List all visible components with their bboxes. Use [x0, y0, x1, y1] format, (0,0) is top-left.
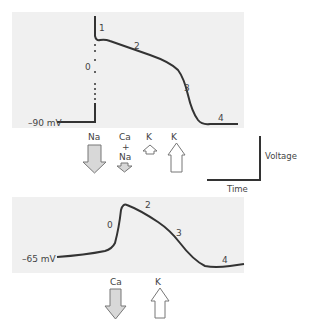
axes-legend-lines	[207, 136, 260, 180]
top-ion-k-small-label: K	[146, 132, 153, 142]
bottom-ion-k-label: K	[155, 277, 162, 287]
arrow-up-large-k-bottom-icon	[151, 288, 169, 318]
arrow-up-small-k-icon	[143, 145, 157, 154]
bottom-phase-0-label: 0	[107, 220, 113, 230]
top-ion-k-large-label: K	[171, 132, 178, 142]
top-panel-background	[12, 12, 244, 128]
arrow-down-large-ca-icon	[105, 289, 126, 319]
top-phase-4-label: 4	[218, 113, 224, 123]
bottom-phase-2-label: 2	[145, 200, 151, 210]
bottom-phase-4-label: 4	[222, 255, 228, 265]
top-phase-3-label: 3	[184, 83, 190, 93]
bottom-ion-ca-label: Ca	[110, 277, 122, 287]
bottom-ion-currents: Ca K	[105, 277, 169, 319]
top-ion-plus-label: +	[122, 142, 130, 152]
arrow-up-large-k-icon	[168, 143, 185, 172]
axes-legend-time-label: Time	[226, 184, 248, 194]
top-ion-na2-label: Na	[119, 152, 131, 162]
top-ion-currents: Na Ca + Na K K	[83, 132, 185, 173]
top-ion-ca-label: Ca	[119, 132, 131, 142]
top-panel-ventricular-action-potential: –90 mV 0 1 2 3 4	[12, 12, 244, 128]
bottom-phase-3-label: 3	[176, 228, 182, 238]
arrow-down-large-na-icon	[83, 145, 106, 173]
axes-legend: Voltage Time	[207, 136, 297, 194]
bottom-baseline-label: –65 mV	[22, 254, 57, 264]
top-baseline-label: –90 mV	[28, 118, 63, 128]
bottom-panel-nodal-action-potential: –65 mV 0 2 3 4	[12, 197, 244, 273]
axes-legend-voltage-label: Voltage	[265, 151, 297, 161]
top-ion-na-label: Na	[88, 132, 100, 142]
action-potential-diagram: –90 mV 0 1 2 3 4 Na Ca + Na K K Voltage …	[0, 0, 310, 330]
top-phase-0-label: 0	[85, 62, 91, 72]
top-phase-1-label: 1	[99, 23, 105, 33]
arrow-down-small-ca-na-icon	[117, 163, 132, 172]
top-phase-2-label: 2	[134, 41, 140, 51]
